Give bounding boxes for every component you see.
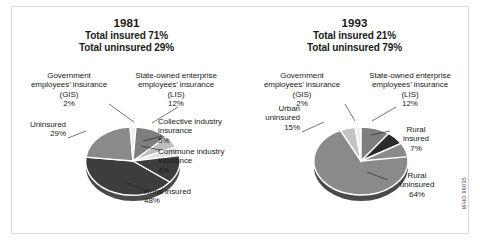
panel-1993: 1993 Total insured 21% Total uninsured 7…: [240, 7, 469, 233]
total-uninsured: Total uninsured 79%: [240, 42, 469, 55]
callout-lis-1981: State-owned enterpriseemployees’ insuran…: [122, 71, 230, 109]
total-insured: Total insured 71%: [12, 30, 241, 43]
panel-heading-1993: 1993 Total insured 21% Total uninsured 7…: [240, 17, 469, 55]
panel-year: 1993: [240, 17, 469, 30]
callout-gis-1993: Governmentemployees’ insurance(GIS)2%: [254, 71, 350, 109]
total-uninsured: Total uninsured 29%: [12, 42, 241, 55]
total-insured: Total insured 21%: [240, 30, 469, 43]
callout-lis-1993: State-owned enterpriseemployees’ insuran…: [356, 71, 464, 109]
callout-rural-insured-1981: Rural insured48%: [144, 187, 236, 206]
panel-heading-1981: 1981 Total insured 71% Total uninsured 2…: [12, 17, 241, 55]
callout-urban-uninsured-1993: Urbanuninsured15%: [248, 104, 300, 132]
callout-rural-uninsured-1993: Ruraluninsured64%: [388, 171, 446, 199]
callout-uninsured-1981: Uninsured29%: [16, 120, 66, 139]
callout-collective-1981: Collective industryinsurance5%: [158, 117, 242, 145]
watermark: WHO 99035: [461, 177, 467, 209]
panel-year: 1981: [12, 17, 241, 30]
panel-1981: 1981 Total insured 71% Total uninsured 2…: [12, 7, 241, 233]
callout-rural-insured-1993: Ruralinsured7%: [390, 125, 442, 153]
figure-frame: 1981 Total insured 71% Total uninsured 2…: [11, 6, 469, 234]
callout-gis-1981: Governmentemployees’ insurance(GIS)2%: [26, 71, 112, 109]
callout-commune-1981: Commune industryinsurance4%: [158, 147, 242, 175]
